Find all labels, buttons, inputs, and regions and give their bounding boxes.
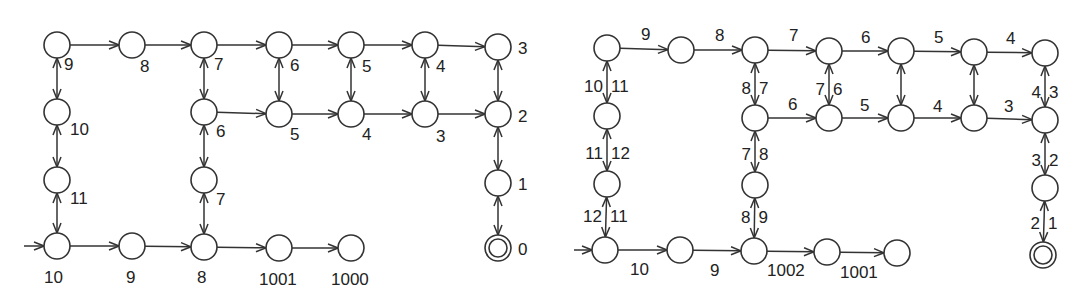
node-label: 5 xyxy=(290,125,299,144)
state-node xyxy=(119,32,145,58)
edge-label-right: 6 xyxy=(833,80,842,99)
edge-label-right: 12 xyxy=(611,144,630,163)
state-node xyxy=(266,101,292,127)
edge-label: 8 xyxy=(715,26,724,45)
node-label: 9 xyxy=(126,268,135,287)
node-label: 10 xyxy=(70,120,89,139)
node-label: 3 xyxy=(518,39,527,58)
state-node xyxy=(741,238,767,264)
node-label: 6 xyxy=(216,122,225,141)
state-node xyxy=(814,239,840,265)
directed-edge xyxy=(987,118,1032,119)
state-node xyxy=(119,233,145,259)
edge-label-left: 12 xyxy=(583,207,602,226)
state-node xyxy=(412,101,438,127)
state-node xyxy=(961,39,987,65)
state-node xyxy=(266,32,292,58)
edge-label-right: 8 xyxy=(759,145,768,164)
node-label: 8 xyxy=(197,268,206,287)
state-node xyxy=(485,170,511,196)
state-node xyxy=(338,235,364,261)
edge-label: 9 xyxy=(710,261,719,280)
state-node xyxy=(44,99,70,125)
state-graph-left: 9876543106543211711098100110000 xyxy=(24,32,527,289)
accepting-inner-ring xyxy=(489,239,507,257)
node-label: 0 xyxy=(518,240,527,259)
state-node xyxy=(667,237,693,263)
edge-label: 3 xyxy=(1004,97,1013,116)
node-label: 1 xyxy=(518,175,527,194)
state-node xyxy=(594,35,620,61)
edge-label-left: 11 xyxy=(585,144,603,163)
state-node xyxy=(592,237,618,263)
edge-label: 4 xyxy=(933,97,942,116)
edges xyxy=(574,48,1045,252)
node-label: 10 xyxy=(44,268,63,287)
directed-edge xyxy=(693,250,741,251)
directed-edge xyxy=(914,51,961,52)
edge-label-left: 8 xyxy=(741,208,750,227)
node-label: 8 xyxy=(140,57,149,76)
edge-label: 5 xyxy=(934,28,943,47)
edge-label-left: 2 xyxy=(1031,214,1040,233)
state-node xyxy=(485,101,511,127)
state-node xyxy=(668,37,694,63)
node-label: 4 xyxy=(436,57,445,76)
node-label: 9 xyxy=(64,55,73,74)
state-node xyxy=(191,167,217,193)
edge-label-left: 4 xyxy=(1032,83,1041,102)
edge-label-left: 8 xyxy=(742,79,751,98)
node-label: 2 xyxy=(518,107,527,126)
directed-edge xyxy=(840,252,884,253)
node-label: 7 xyxy=(216,190,225,209)
state-node xyxy=(888,38,914,64)
state-node xyxy=(412,32,438,58)
directed-edge xyxy=(767,251,814,252)
edge-label-right: 2 xyxy=(1049,151,1058,170)
accepting-inner-ring xyxy=(1034,246,1052,264)
edge-label-right: 11 xyxy=(611,77,629,96)
state-node xyxy=(485,34,511,60)
bidirectional-edge xyxy=(754,198,755,238)
edge-label-right: 7 xyxy=(759,79,768,98)
directed-edge xyxy=(987,52,1032,53)
directed-edge xyxy=(438,45,485,46)
state-node xyxy=(961,105,987,131)
node-label: 7 xyxy=(214,55,223,74)
directed-edge xyxy=(217,112,266,113)
edge-label-left: 10 xyxy=(584,77,603,96)
state-node xyxy=(888,105,914,131)
bidirectional-edge xyxy=(605,197,606,237)
node-label: 5 xyxy=(362,57,371,76)
state-node xyxy=(742,105,768,131)
directed-edge xyxy=(145,246,191,247)
node-label: 1000 xyxy=(331,270,369,289)
nodes xyxy=(592,35,1058,268)
edge-label-right: 9 xyxy=(759,208,768,227)
node-label: 4 xyxy=(362,125,371,144)
directed-edge xyxy=(768,50,816,51)
bidirectional-edge xyxy=(1043,201,1044,242)
node-label: 6 xyxy=(290,56,299,75)
edge-label-left: 3 xyxy=(1032,151,1041,170)
edge-label: 6 xyxy=(861,28,870,47)
state-node xyxy=(338,101,364,127)
state-node xyxy=(816,38,842,64)
node-label: 3 xyxy=(436,127,445,146)
edge-label: 1002 xyxy=(767,261,805,280)
edges xyxy=(24,45,498,248)
edge-label: 5 xyxy=(860,96,869,115)
state-node xyxy=(338,32,364,58)
state-node xyxy=(1032,175,1058,201)
edge-label: 4 xyxy=(1006,29,1015,48)
edge-label: 7 xyxy=(789,26,798,45)
edge-label-right: 3 xyxy=(1049,83,1058,102)
edge-label-left: 7 xyxy=(816,80,825,99)
node-label: 1001 xyxy=(259,270,297,289)
edge-label-right: 1 xyxy=(1048,214,1057,233)
state-node xyxy=(1032,107,1058,133)
state-node xyxy=(594,171,620,197)
node-label: 11 xyxy=(70,189,88,208)
edge-label: 6 xyxy=(788,95,797,114)
edge-label: 1001 xyxy=(840,263,878,282)
